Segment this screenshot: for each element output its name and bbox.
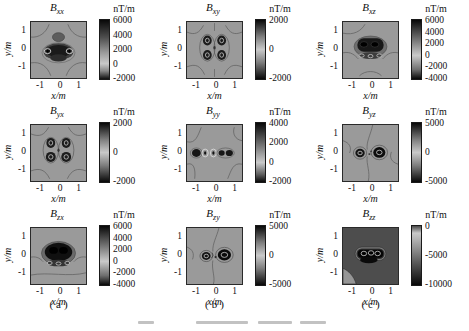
y-axis-ticks: 10-1 [169, 25, 182, 71]
y-tick-label: -1 [174, 267, 182, 277]
caption-fragment [138, 321, 154, 324]
colorbar-Bxz [411, 19, 422, 80]
colorbar-tick-label: -2000 [113, 267, 155, 277]
contour-plot-Byy [186, 124, 243, 182]
colorbar-unit-label: nT/m [408, 209, 464, 220]
y-axis-ticks: 10-1 [13, 231, 26, 277]
y-tick-label: 1 [333, 128, 338, 138]
y-tick-label: 1 [177, 25, 182, 35]
x-axis-label: x/m [30, 90, 87, 101]
y-axis-ticks: 10-1 [325, 128, 338, 174]
column-label-c: (c) [312, 298, 432, 314]
x-tick-label: 1 [232, 80, 237, 90]
x-axis-ticks: -101 [348, 286, 393, 296]
y-tick-label: -1 [330, 267, 338, 277]
colorbar-ticks: 0-5000-10000 [425, 221, 467, 289]
colorbar-ticks: 50000-5000 [269, 221, 311, 289]
colorbar-tick-label: -5000 [425, 176, 467, 186]
colorbar-unit-label: nT/m [408, 3, 464, 14]
x-axis-label: x/m [342, 193, 399, 204]
colorbar-tick-label: 2000 [113, 244, 155, 254]
y-tick-label: 0 [333, 43, 338, 53]
colorbar-tick-label: 0 [425, 221, 467, 231]
column-label-a: (a) [0, 298, 120, 314]
colorbar-tick-label: 6000 [113, 221, 155, 231]
x-tick-label: 0 [214, 80, 219, 90]
y-tick-label: -1 [330, 61, 338, 71]
y-tick-label: 1 [177, 128, 182, 138]
y-tick-label: 0 [333, 249, 338, 259]
contour-plot-Bxy [186, 21, 243, 79]
y-axis-ticks: 10-1 [13, 128, 26, 174]
x-tick-label: 1 [388, 80, 393, 90]
colorbar-tick-label: 5000 [425, 118, 467, 128]
x-tick-label: -1 [348, 183, 356, 193]
colorbar-unit-label: nT/m [96, 209, 152, 220]
y-tick-label: -1 [18, 267, 26, 277]
y-tick-label: 1 [21, 128, 26, 138]
panel-title-Byy: Byy [182, 104, 244, 121]
x-tick-label: 1 [388, 183, 393, 193]
colorbar-tick-label: 4000 [113, 30, 155, 40]
colorbar-tick-label: 4000 [113, 233, 155, 243]
colorbar-tick-label: 2000 [425, 38, 467, 48]
colorbar-Bxx [99, 19, 110, 80]
y-tick-label: 0 [177, 146, 182, 156]
colorbar-tick-label: -5000 [425, 250, 467, 260]
colorbar-Bzx [99, 225, 110, 286]
contour-plot-Bzz [342, 227, 399, 285]
y-axis-ticks: 10-1 [169, 231, 182, 277]
panel-title-Byx: Byx [26, 104, 88, 121]
y-tick-label: -1 [18, 164, 26, 174]
panel-title-Bxz: Bxz [338, 1, 400, 18]
x-tick-label: -1 [192, 80, 200, 90]
colorbar-tick-label: -2000 [113, 176, 155, 186]
colorbar-tick-label: -2000 [113, 73, 155, 83]
panel-Bxz: Bxz nT/m y/m 10-1 [312, 0, 468, 103]
caption-fragment [196, 321, 248, 324]
y-tick-label: 0 [21, 249, 26, 259]
x-axis-ticks: -101 [192, 183, 237, 193]
colorbar-ticks: 50000-5000 [425, 118, 467, 186]
colorbar-tick-label: -2000 [269, 176, 311, 186]
colorbar-unit-label: nT/m [96, 106, 152, 117]
colorbar-tick-label: 0 [425, 147, 467, 157]
x-tick-label: 0 [58, 183, 63, 193]
panel-title-Bzx: Bzx [26, 207, 88, 224]
colorbar-Byx [99, 122, 110, 183]
y-tick-label: -1 [174, 61, 182, 71]
column-label-b: (b) [156, 298, 276, 314]
colorbar-tick-label: 0 [113, 256, 155, 266]
x-axis-label: x/m [186, 193, 243, 204]
x-tick-label: 1 [232, 183, 237, 193]
column-labels: (a) (b) (c) [0, 298, 469, 314]
colorbar-tick-label: -10000 [425, 279, 467, 289]
colorbar-tick-label: 2000 [269, 15, 311, 25]
panel-Bxy: Bxy nT/m y/m 10-1 [156, 0, 312, 103]
x-tick-label: 0 [370, 80, 375, 90]
colorbar-ticks: 20000-2000 [113, 118, 155, 186]
colorbar-ticks: 6000400020000-2000 [113, 15, 155, 83]
y-tick-label: 0 [21, 43, 26, 53]
colorbar-ticks: 400020000-2000 [269, 118, 311, 186]
y-tick-label: -1 [18, 61, 26, 71]
x-tick-label: -1 [36, 183, 44, 193]
colorbar-ticks: 20000-2000 [269, 15, 311, 83]
colorbar-ticks: 6000400020000-2000-4000 [113, 221, 155, 289]
colorbar-Bxy [255, 19, 266, 80]
colorbar-tick-label: 5000 [269, 221, 311, 231]
contour-plot-Byx [30, 124, 87, 182]
colorbar-Byy [255, 122, 266, 183]
colorbar-tick-label: -4000 [113, 279, 155, 289]
panel-row-1: Bxx nT/m y/m 10-1 [0, 0, 469, 103]
y-tick-label: -1 [174, 164, 182, 174]
colorbar-tick-label: 2000 [269, 137, 311, 147]
tensor-contour-figure: Bxx nT/m y/m 10-1 [0, 0, 469, 331]
colorbar-tick-label: 0 [269, 44, 311, 54]
colorbar-tick-label: 2000 [113, 44, 155, 54]
colorbar-tick-label: 4000 [269, 118, 311, 128]
contour-plot-Byz [342, 124, 399, 182]
panel-Bzy: Bzy nT/m y/m 10-1 [156, 206, 312, 309]
y-axis-ticks: 10-1 [325, 25, 338, 71]
y-axis-ticks: 10-1 [169, 128, 182, 174]
